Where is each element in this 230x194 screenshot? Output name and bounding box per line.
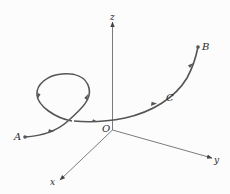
y-axis-label: y — [213, 155, 220, 165]
y-axis — [113, 130, 213, 158]
direction-arrow-icon — [92, 119, 98, 122]
diagram-canvas: z y x O A B C — [0, 0, 230, 194]
x-axis — [60, 130, 113, 180]
path-segment-loop-to-b — [74, 47, 198, 122]
point-a-label: A — [13, 131, 21, 142]
point-a-marker — [23, 135, 27, 139]
z-axis-label: z — [109, 12, 115, 22]
origin-label: O — [102, 123, 110, 134]
point-b-marker — [196, 45, 200, 49]
point-b-label: B — [201, 41, 209, 52]
x-axis-label: x — [50, 177, 55, 187]
direction-arrow-icon — [37, 93, 40, 99]
path-loop — [37, 74, 90, 121]
diagram-svg: z y x O A B C — [0, 0, 230, 194]
direction-arrow-icon — [151, 102, 157, 106]
point-c-label: C — [166, 92, 174, 103]
path-segment-a-to-loop — [25, 121, 68, 137]
